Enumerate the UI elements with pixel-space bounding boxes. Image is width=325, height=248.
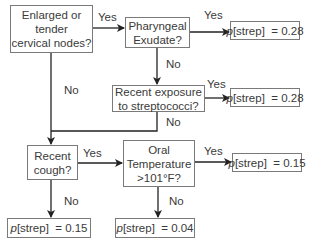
node-text-line: to streptococci? [115,99,202,113]
node-text-line: Recent [34,149,72,163]
prob-value: [strep] = 0.15 [17,221,88,235]
node-text-line: Exudate? [128,33,186,47]
node-enlarged-cervical-nodes: Enlarged or tender cervical nodes? [10,5,93,53]
edge-label-n5-yes: Yes [204,145,223,157]
prob-value: [strep] = 0.28 [233,91,304,105]
outcome-strep-015-right: p[strep] = 0.15 [232,153,302,172]
node-text-line: Enlarged or [12,8,92,22]
edge-label-n1-no: No [64,84,79,96]
node-text-line: Pharyngeal [128,19,186,33]
edge-label-n3-yes: Yes [207,78,226,90]
edge-label-n4-no: No [64,195,79,207]
node-text-line: tender [12,22,92,36]
edge-label-n2-no: No [166,58,181,70]
node-recent-exposure: Recent exposure to streptococci? [112,85,205,112]
node-text-line: >101°F? [127,171,192,185]
node-text-line: Oral [127,143,192,157]
edge-label-n5-no: No [169,195,184,207]
prob-value: [strep] = 0.28 [233,24,304,38]
node-oral-temperature: Oral Temperature >101°F? [123,140,195,187]
node-pharyngeal-exudate: Pharyngeal Exudate? [125,17,190,48]
edge-label-n1-yes: Yes [98,11,117,23]
outcome-strep-028-mid: p[strep] = 0.28 [230,88,300,107]
node-text-line: Temperature [127,157,192,171]
prob-value: [strep] = 0.15 [235,156,306,170]
edge-label-n4-yes: Yes [83,147,102,159]
node-recent-cough: Recent cough? [27,145,78,180]
prob-value: [strep] = 0.04 [123,221,194,235]
outcome-strep-015-bottom: p[strep] = 0.15 [7,218,91,238]
node-text-line: cervical nodes? [12,36,92,50]
edge-label-n2-yes: Yes [204,9,223,21]
edge-label-n3-no: No [166,116,181,128]
outcome-strep-028-top: p[strep] = 0.28 [230,21,300,40]
outcome-strep-004: p[strep] = 0.04 [115,218,195,238]
node-text-line: Recent exposure [115,85,202,99]
node-text-line: cough? [34,163,72,177]
